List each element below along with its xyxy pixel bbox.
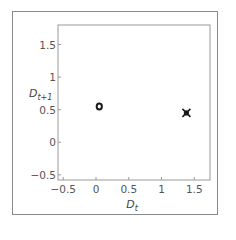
y-axis-label: Dt+1 xyxy=(29,87,52,102)
y-tick-label: 1.5 xyxy=(39,39,56,51)
data-point xyxy=(182,109,190,117)
data-point xyxy=(97,103,102,109)
y-axis: −0.500.511.5 xyxy=(31,39,62,181)
y-tick-label: 0 xyxy=(49,136,56,148)
data-points xyxy=(97,103,191,117)
x-tick-label: 0.5 xyxy=(120,183,137,195)
y-tick-label: 0.5 xyxy=(39,104,56,116)
x-tick-label: 1 xyxy=(158,183,165,195)
x-axis-label: Dt xyxy=(126,198,138,213)
x-tick-label: 1.5 xyxy=(186,183,203,195)
x-tick-label: −0.5 xyxy=(50,183,76,195)
y-tick-label: −0.5 xyxy=(31,169,57,181)
y-tick-label: 1 xyxy=(49,71,56,83)
plot-area xyxy=(58,25,210,180)
x-tick-label: 0 xyxy=(93,183,100,195)
scatter-chart: −0.500.511.5 −0.500.511.5 Dt Dt+1 xyxy=(0,0,236,240)
